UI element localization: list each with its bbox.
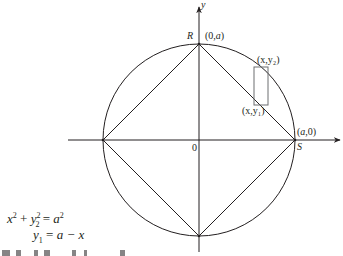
strip-rectangle xyxy=(254,67,268,105)
label-S: S xyxy=(297,142,302,152)
y-axis-label: y xyxy=(201,0,205,10)
label-origin: 0 xyxy=(192,143,197,153)
label-top-point: (0,a) xyxy=(205,31,224,41)
cropped-text-line xyxy=(0,250,200,256)
vertex-bottom xyxy=(198,235,201,238)
line-equation: y1 = a − x xyxy=(33,228,84,247)
label-upper-point: (x,y₂) xyxy=(257,55,280,65)
vertex-right xyxy=(294,139,297,142)
vertex-top xyxy=(198,43,201,46)
label-right-point: (a,0) xyxy=(297,127,316,137)
label-R: R xyxy=(187,31,193,41)
label-lower-point: (x,y₁) xyxy=(242,106,265,116)
vertex-left xyxy=(102,139,105,142)
